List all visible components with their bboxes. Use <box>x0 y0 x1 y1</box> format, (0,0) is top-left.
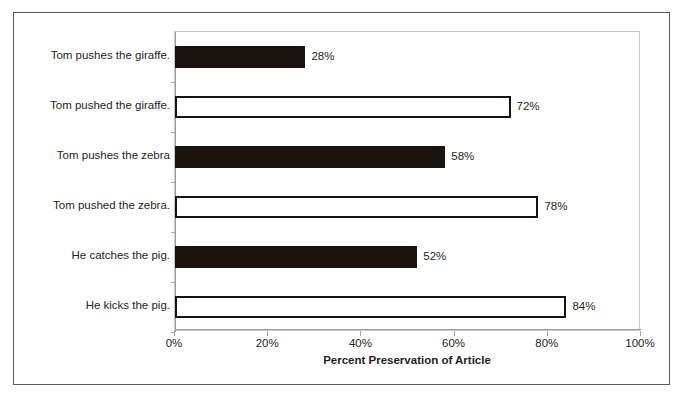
category-tick <box>171 82 175 83</box>
x-tick-label-2: 40% <box>349 338 372 350</box>
bar-1 <box>175 46 305 68</box>
x-tick-label-1: 20% <box>256 338 279 350</box>
bar-value-label: 52% <box>423 251 446 263</box>
bar-value-label: 72% <box>517 101 540 113</box>
bar-row: 58% <box>175 146 639 168</box>
x-tick <box>640 331 641 336</box>
category-tick <box>171 132 175 133</box>
bar-5 <box>175 246 417 268</box>
chart-outer-frame: 28%72%58%78%52%84% Tom pushes the giraff… <box>13 12 670 385</box>
x-tick <box>360 331 361 336</box>
x-tick-label-0: 0% <box>166 338 183 350</box>
category-label-2: Tom pushed the giraffe. <box>50 100 170 112</box>
category-label-1: Tom pushes the giraffe. <box>51 50 170 62</box>
x-axis-title: Percent Preservation of Article <box>174 355 640 367</box>
bar-3 <box>175 146 445 168</box>
bar-value-label: 58% <box>451 151 474 163</box>
category-label-4: Tom pushed the zebra. <box>53 200 170 212</box>
bar-row: 72% <box>175 96 639 118</box>
bar-2 <box>175 96 511 118</box>
category-tick <box>171 232 175 233</box>
x-tick-label-4: 80% <box>535 338 558 350</box>
y-axis-line <box>175 32 176 332</box>
bar-row: 84% <box>175 296 639 318</box>
figure: 28%72%58%78%52%84% Tom pushes the giraff… <box>0 0 682 404</box>
x-tick <box>267 331 268 336</box>
x-tick <box>454 331 455 336</box>
bar-value-label: 78% <box>544 201 567 213</box>
plot-area: 28%72%58%78%52%84% <box>174 31 640 331</box>
category-label-3: Tom pushes the zebra <box>57 150 170 162</box>
x-tick <box>174 331 175 336</box>
x-tick-label-5: 100% <box>625 338 654 350</box>
category-axis-labels: Tom pushes the giraffe.Tom pushed the gi… <box>22 31 170 331</box>
category-tick <box>171 282 175 283</box>
category-label-5: He catches the pig. <box>72 250 170 262</box>
bar-row: 78% <box>175 196 639 218</box>
bar-value-label: 28% <box>311 51 334 63</box>
x-tick-label-3: 60% <box>442 338 465 350</box>
category-label-6: He kicks the pig. <box>86 300 170 312</box>
bar-row: 52% <box>175 246 639 268</box>
category-tick <box>171 182 175 183</box>
x-tick <box>547 331 548 336</box>
x-axis-line <box>175 329 641 330</box>
bar-value-label: 84% <box>572 301 595 313</box>
bar-4 <box>175 196 538 218</box>
bar-row: 28% <box>175 46 639 68</box>
bar-6 <box>175 296 566 318</box>
